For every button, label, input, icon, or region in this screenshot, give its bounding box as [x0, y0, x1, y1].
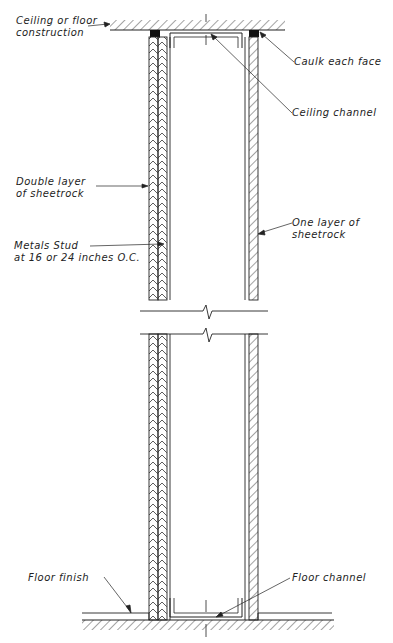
label-caulk: Caulk each face: [294, 56, 381, 68]
floor-construction: [82, 620, 334, 630]
label-double-layer: Double layer of sheetrock: [16, 176, 86, 200]
label-line: of sheetrock: [16, 188, 86, 200]
caulk-left: [150, 30, 160, 37]
label-line: at 16 or 24 inches O.C.: [14, 252, 140, 264]
label-line: Metals Stud: [14, 240, 140, 252]
label-metal-stud: Metals Stud at 16 or 24 inches O.C.: [14, 240, 140, 264]
leader-lines: [88, 22, 294, 617]
caulk-right: [249, 30, 259, 37]
label-ceiling-channel: Ceiling channel: [292, 107, 376, 119]
ceiling-construction: [110, 20, 285, 30]
right-wall-upper: [245, 37, 258, 300]
label-line: Double layer: [16, 176, 86, 188]
label-one-layer: One layer of sheetrock: [292, 217, 359, 241]
right-wall-lower: [245, 334, 258, 620]
wall-section-drawing: [0, 0, 393, 643]
label-line: sheetrock: [292, 229, 359, 241]
label-line: Ceiling or floor: [16, 15, 97, 27]
label-line: One layer of: [292, 217, 359, 229]
left-wall-lower: [149, 334, 170, 620]
label-floor-channel: Floor channel: [292, 572, 366, 584]
label-line: construction: [16, 27, 97, 39]
label-ceiling-construction: Ceiling or floor construction: [16, 15, 97, 39]
label-floor-finish: Floor finish: [28, 572, 89, 584]
left-wall-upper: [149, 37, 170, 300]
